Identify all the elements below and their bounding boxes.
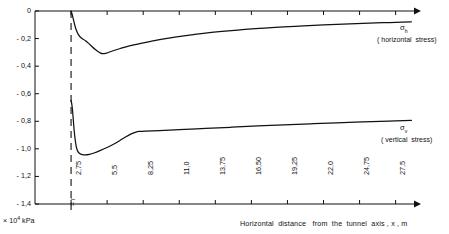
x-axis-tick-label: 13,75 xyxy=(219,157,226,175)
axes-frame xyxy=(35,8,421,208)
y-axis-tick-marks xyxy=(35,11,39,204)
x-axis-tick-marks-bottom xyxy=(71,200,396,204)
tunnel-radius-label: = r xyxy=(69,198,76,206)
x-axis-tick-label: 11,0 xyxy=(183,162,190,175)
x-axis-tick-label: 5,5 xyxy=(111,165,118,175)
sigma-v-symbol: σv xyxy=(400,124,407,134)
y-unit-prefix: × 10 xyxy=(3,216,17,225)
x-axis-tick-label: 8,25 xyxy=(147,161,154,175)
chart-figure: 0- 0,2- 0,4- 0,6- 0,8- 1,0- 1,2- 1,4 2,7… xyxy=(0,0,449,234)
y-unit-suffix: kPa xyxy=(20,216,34,225)
y-axis-tick-label: - 1,0 xyxy=(0,145,31,152)
series-line-sigma-h xyxy=(71,11,411,54)
y-axis-tick-label: - 0,2 xyxy=(0,35,31,42)
y-axis-tick-label: - 0,4 xyxy=(0,62,31,69)
x-axis-tick-label: 19,25 xyxy=(291,157,298,175)
y-axis-unit-label: × 104 kPa xyxy=(3,216,34,225)
x-axis-tick-label: 2,75 xyxy=(75,161,82,175)
y-axis-tick-label: 0 xyxy=(0,7,31,14)
x-axis-tick-label: 27,5 xyxy=(399,161,406,175)
x-axis-tick-label: 24,75 xyxy=(363,157,370,175)
sigma-h-description: ( horizontal stress) xyxy=(377,36,437,43)
y-axis-tick-label: - 1,2 xyxy=(0,172,31,179)
x-axis-tick-marks-top xyxy=(71,11,396,15)
sigma-h-subscript: h xyxy=(405,28,408,34)
sigma-v-description: ( vertical stress) xyxy=(381,136,432,143)
y-axis-tick-label: - 1,4 xyxy=(0,200,31,207)
sigma-v-subscript: v xyxy=(405,128,408,134)
x-axis-tick-label: 22,0 xyxy=(327,161,334,175)
y-axis-tick-label: - 0,6 xyxy=(0,90,31,97)
sigma-h-symbol: σh xyxy=(400,24,408,34)
x-axis-title: Horizontal distance from the tunnel axis… xyxy=(240,220,408,227)
y-axis-tick-label: - 0,8 xyxy=(0,117,31,124)
series-line-sigma-v xyxy=(71,100,411,155)
x-axis-tick-label: 16,50 xyxy=(255,157,262,175)
